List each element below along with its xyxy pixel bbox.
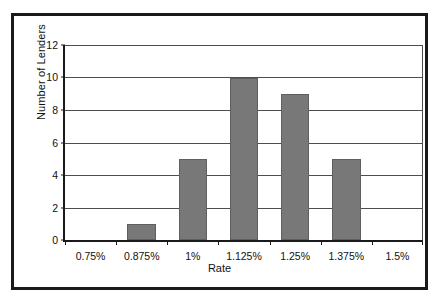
gridline (65, 143, 423, 144)
y-axis-tick-label: 6 (52, 137, 58, 149)
y-axis-tick-label: 4 (52, 169, 58, 181)
y-axis-tick-label: 8 (52, 104, 58, 116)
y-axis-tick-mark (61, 142, 65, 143)
x-axis-tick-mark (372, 240, 373, 245)
plot-area: 121086420 0.75%0.875%1%1.125%1.25%1.375%… (63, 45, 423, 242)
y-axis-tick-mark (61, 77, 65, 78)
x-axis-tick-mark (116, 240, 117, 245)
y-axis-tick-mark (61, 109, 65, 110)
gridline (65, 208, 423, 209)
y-axis-tick-label: 0 (52, 234, 58, 246)
x-axis-tick-mark (270, 240, 271, 245)
gridline (65, 110, 423, 111)
y-axis-tick-mark (61, 207, 65, 208)
chart-frame: Number of Lenders 121086420 0.75%0.875%1… (11, 13, 428, 290)
x-axis-tick-mark (167, 240, 168, 245)
x-axis-tick-mark (422, 240, 423, 245)
bar[interactable] (332, 159, 361, 240)
gridline (65, 77, 423, 78)
bar[interactable] (281, 94, 310, 240)
y-axis-tick-mark (61, 174, 65, 175)
y-axis-title: Number of Lenders (35, 0, 47, 147)
x-axis-tick-mark (321, 240, 322, 245)
bar[interactable] (230, 78, 259, 241)
x-axis-tick-mark (65, 240, 66, 245)
y-axis-tick-label: 12 (46, 39, 58, 51)
y-axis-tick-mark (61, 45, 65, 46)
x-axis-tick-mark (218, 240, 219, 245)
bar[interactable] (179, 159, 208, 240)
y-axis-tick-label: 2 (52, 202, 58, 214)
x-axis-title: Rate (14, 262, 425, 274)
gridline (65, 175, 423, 176)
bar[interactable] (127, 224, 156, 240)
gridline (65, 45, 423, 46)
y-axis-tick-label: 10 (46, 71, 58, 83)
